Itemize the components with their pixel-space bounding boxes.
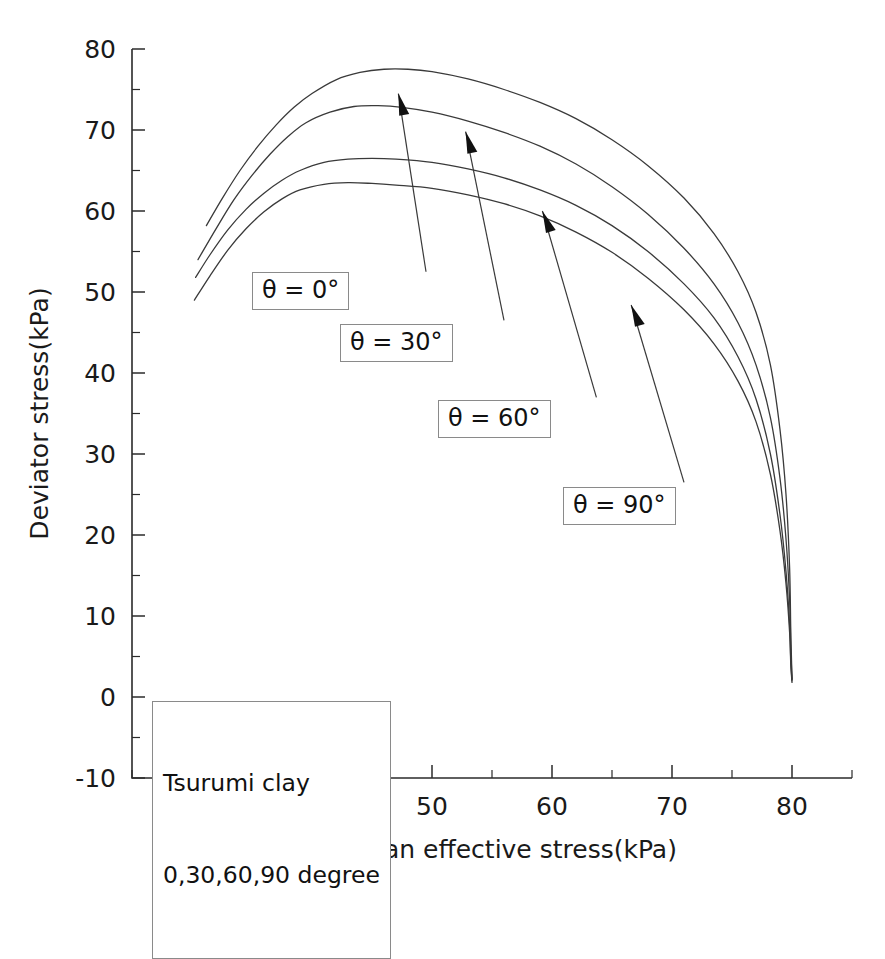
leader-line-ann-90: [631, 305, 684, 482]
y-tick-label: 40: [84, 359, 116, 388]
caption-line-2: 0,30,60,90 degree: [163, 860, 380, 891]
leader-line-ann-0: [398, 94, 426, 272]
y-tick-label: 80: [84, 35, 116, 64]
y-tick-label: 10: [84, 602, 116, 631]
y-tick-label: 20: [84, 521, 116, 550]
arrow-head-ann-90: [631, 305, 645, 327]
y-tick-label: -10: [75, 764, 116, 793]
y-axis-title: Deviator stress(kPa): [25, 287, 54, 539]
y-tick-label: 0: [100, 683, 116, 712]
x-tick-label: 70: [656, 792, 688, 821]
x-tick-label: 80: [776, 792, 808, 821]
leader-line-ann-30: [466, 132, 504, 321]
series-label-ann-0: θ = 0°: [252, 272, 349, 310]
arrow-head-ann-30: [466, 132, 478, 154]
y-tick-label: 60: [84, 197, 116, 226]
series-label-ann-90: θ = 90°: [563, 487, 676, 525]
y-tick-label: 30: [84, 440, 116, 469]
data-curve-0: [206, 69, 792, 679]
y-tick-label: 50: [84, 278, 116, 307]
caption-box: Tsurumi clay 0,30,60,90 degree: [152, 701, 391, 959]
x-axis-title: Mean effective stress(kPa): [347, 835, 677, 864]
arrow-head-ann-0: [398, 94, 409, 116]
series-label-ann-60: θ = 60°: [438, 400, 551, 438]
series-label-ann-30: θ = 30°: [340, 324, 453, 362]
y-tick-label: 70: [84, 116, 116, 145]
x-tick-label: 50: [416, 792, 448, 821]
x-tick-label: 60: [536, 792, 568, 821]
caption-line-1: Tsurumi clay: [163, 768, 380, 799]
data-curve-1: [198, 106, 792, 680]
